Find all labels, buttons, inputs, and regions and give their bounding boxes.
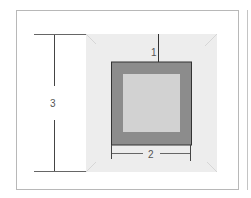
dimension-2-label: 2 [148, 149, 154, 160]
dimension-3: 3 [34, 35, 86, 172]
inner-square [123, 74, 180, 132]
dimension-3-label: 3 [50, 98, 56, 109]
diagram-canvas: 1 2 3 [0, 0, 251, 198]
dimension-1-label: 1 [151, 47, 157, 58]
